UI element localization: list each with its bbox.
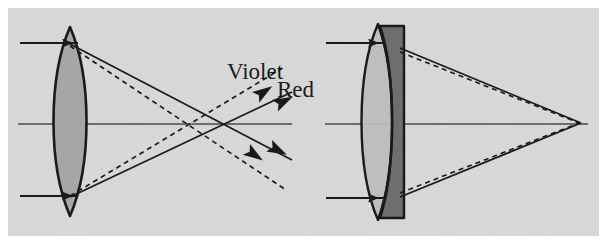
violet-label: Violet: [227, 59, 284, 84]
figure-plate-texture: [8, 8, 599, 236]
chromatic-aberration-figure: Violet Red: [0, 0, 607, 244]
figure-canvas: Violet Red: [0, 0, 607, 244]
red-label: Red: [277, 77, 315, 102]
